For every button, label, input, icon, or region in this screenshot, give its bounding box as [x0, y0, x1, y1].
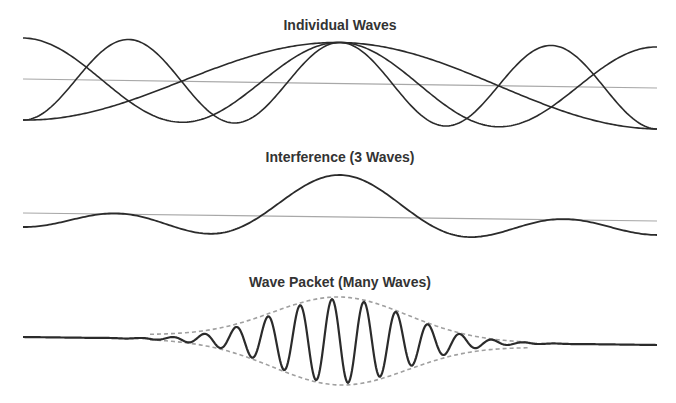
panel-title-individual: Individual Waves	[283, 17, 396, 33]
panel-title-packet: Wave Packet (Many Waves)	[249, 274, 431, 290]
panel-title-interference: Interference (3 Waves)	[266, 149, 415, 165]
wave-superposition-figure: Individual Waves Interference (3 Waves) …	[0, 0, 676, 403]
background	[0, 0, 676, 403]
